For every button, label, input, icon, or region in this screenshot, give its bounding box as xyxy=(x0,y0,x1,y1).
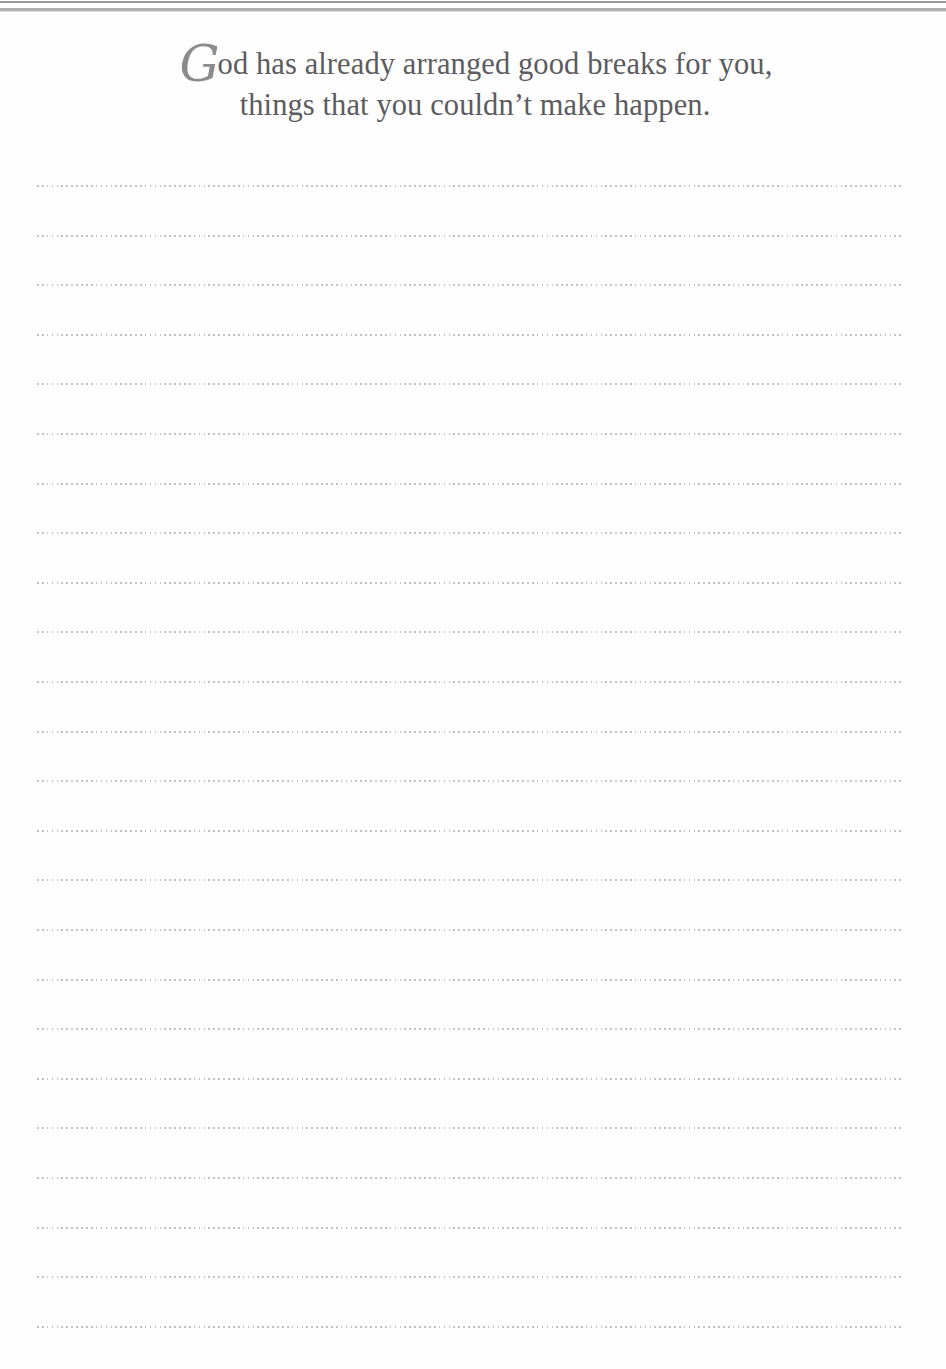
ruled-line xyxy=(37,1326,901,1328)
journal-page: God has already arranged good breaks for… xyxy=(0,0,946,1369)
ruled-line xyxy=(37,979,901,981)
ruled-line xyxy=(37,483,901,485)
ruled-line xyxy=(37,1177,901,1179)
ruled-line xyxy=(37,879,901,881)
ruled-line xyxy=(37,830,901,832)
ruled-line xyxy=(37,1028,901,1030)
ruled-line xyxy=(37,929,901,931)
ruled-line xyxy=(37,532,901,534)
ruled-line xyxy=(37,780,901,782)
ruled-writing-area xyxy=(0,0,946,1369)
ruled-line xyxy=(37,235,901,237)
ruled-line xyxy=(37,1127,901,1129)
ruled-line xyxy=(37,1078,901,1080)
ruled-line xyxy=(37,582,901,584)
ruled-line xyxy=(37,731,901,733)
ruled-line xyxy=(37,631,901,633)
ruled-line xyxy=(37,334,901,336)
ruled-line xyxy=(37,1276,901,1278)
ruled-line xyxy=(37,383,901,385)
ruled-line xyxy=(37,1227,901,1229)
ruled-line xyxy=(37,284,901,286)
ruled-line xyxy=(37,433,901,435)
ruled-line xyxy=(37,185,901,187)
ruled-line xyxy=(37,681,901,683)
